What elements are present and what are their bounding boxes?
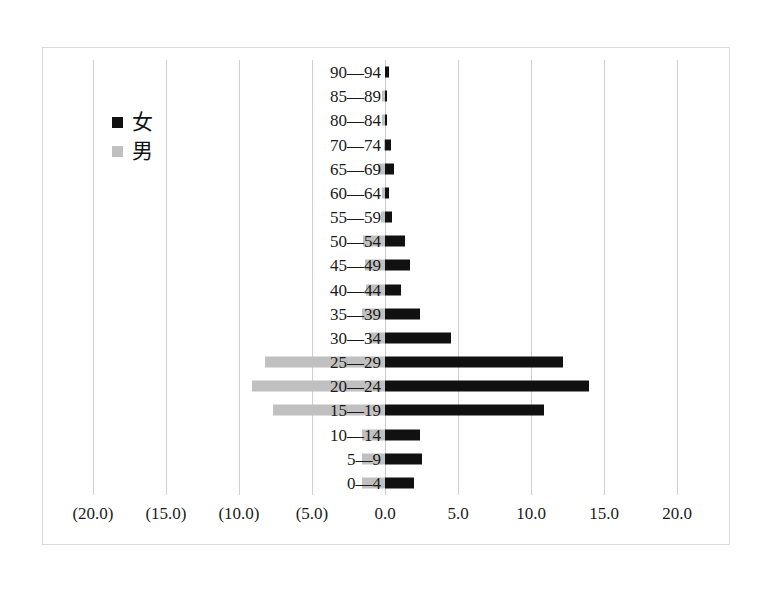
bar-female: [385, 163, 394, 174]
bar-female: [385, 67, 389, 78]
x-tick-label: 0.0: [374, 505, 395, 522]
x-axis-tick-labels: (20.0)(15.0)(10.0)(5.0)0.05.010.015.020.…: [42, 505, 730, 531]
x-tick-label: 15.0: [589, 505, 619, 522]
x-tick-label: 5.0: [447, 505, 468, 522]
x-tick-label: (20.0): [72, 505, 113, 522]
bar-female: [385, 139, 391, 150]
category-label: 50—54: [330, 233, 381, 250]
bar-female: [385, 357, 563, 368]
category-label: 30—34: [330, 329, 381, 346]
bar-row: 60—64: [42, 181, 730, 205]
legend-item-female: 女: [112, 108, 232, 137]
category-label: 10—14: [330, 426, 381, 443]
category-label: 55—59: [330, 209, 381, 226]
category-label: 35—39: [330, 305, 381, 322]
bar-female: [385, 187, 389, 198]
bar-female: [385, 429, 420, 440]
legend-label-female: 女: [132, 112, 153, 133]
x-tick-label: (15.0): [145, 505, 186, 522]
bar-row: 15—19: [42, 398, 730, 422]
category-label: 15—19: [330, 402, 381, 419]
bar-female: [385, 91, 387, 102]
bar-row: 25—29: [42, 350, 730, 374]
bar-female: [385, 381, 589, 392]
bar-row: 0—4: [42, 471, 730, 495]
category-label: 85—89: [330, 88, 381, 105]
x-tick-label: (5.0): [296, 505, 329, 522]
category-label: 45—49: [330, 257, 381, 274]
legend-swatch-female-icon: [112, 117, 123, 128]
category-label: 65—69: [330, 160, 381, 177]
bar-female: [385, 477, 414, 488]
bar-row: 30—34: [42, 326, 730, 350]
category-label: 90—94: [330, 64, 381, 81]
bar-row: 5—9: [42, 447, 730, 471]
bar-row: 90—94: [42, 60, 730, 84]
bar-female: [385, 260, 410, 271]
population-pyramid-chart: 90—9485—8980—8470—7465—6960—6455—5950—54…: [0, 0, 773, 590]
category-label: 0—4: [347, 474, 381, 491]
bar-female: [385, 115, 387, 126]
x-tick-label: 20.0: [662, 505, 692, 522]
bar-row: 40—44: [42, 278, 730, 302]
category-label: 80—84: [330, 112, 381, 129]
category-label: 60—64: [330, 184, 381, 201]
bar-female: [385, 284, 401, 295]
legend-label-male: 男: [132, 141, 153, 162]
bar-female: [385, 405, 544, 416]
bar-row: 85—89: [42, 84, 730, 108]
bar-female: [385, 236, 405, 247]
bar-row: 20—24: [42, 374, 730, 398]
bar-row: 55—59: [42, 205, 730, 229]
chart-legend: 女 男: [112, 108, 232, 166]
bar-female: [385, 332, 451, 343]
bar-row: 50—54: [42, 229, 730, 253]
category-label: 20—24: [330, 378, 381, 395]
category-label: 40—44: [330, 281, 381, 298]
bar-row: 10—14: [42, 423, 730, 447]
category-label: 25—29: [330, 354, 381, 371]
bar-female: [385, 453, 422, 464]
legend-item-male: 男: [112, 137, 232, 166]
x-tick-label: (10.0): [218, 505, 259, 522]
x-tick-label: 10.0: [516, 505, 546, 522]
category-label: 5—9: [347, 450, 381, 467]
bar-row: 35—39: [42, 302, 730, 326]
bar-female: [385, 212, 392, 223]
category-label: 70—74: [330, 136, 381, 153]
legend-swatch-male-icon: [112, 146, 123, 157]
bar-row: 45—49: [42, 253, 730, 277]
bar-female: [385, 308, 420, 319]
